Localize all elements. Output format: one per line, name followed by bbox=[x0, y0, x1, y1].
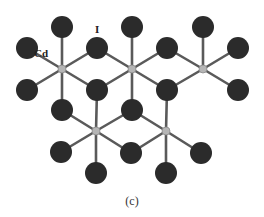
iodine-atom bbox=[86, 79, 108, 101]
cdi2-crystal-structure-diagram: Cd I bbox=[0, 0, 264, 217]
iodine-atom bbox=[50, 141, 72, 163]
iodine-atom bbox=[85, 162, 107, 184]
iodine-atom bbox=[120, 142, 142, 164]
iodine-atom bbox=[51, 16, 73, 38]
cadmium-atom bbox=[58, 65, 66, 73]
cd-label: Cd bbox=[34, 47, 48, 59]
iodine-atom bbox=[121, 99, 143, 121]
cadmium-atom bbox=[199, 65, 207, 73]
iodine-atom bbox=[156, 37, 178, 59]
iodine-atom bbox=[51, 99, 73, 121]
iodine-atom bbox=[156, 79, 178, 101]
iodine-atom bbox=[155, 162, 177, 184]
i-label: I bbox=[95, 23, 99, 35]
iodine-atom bbox=[190, 142, 212, 164]
iodine-atom bbox=[16, 79, 38, 101]
cadmium-atom bbox=[128, 65, 136, 73]
cadmium-atom bbox=[92, 127, 100, 135]
iodine-atom bbox=[227, 79, 249, 101]
cadmium-atom bbox=[162, 127, 170, 135]
iodine-atom bbox=[192, 16, 214, 38]
iodine-atom bbox=[227, 37, 249, 59]
iodine-atom bbox=[86, 37, 108, 59]
figure-caption: (c) bbox=[0, 194, 264, 209]
iodine-atom bbox=[121, 16, 143, 38]
